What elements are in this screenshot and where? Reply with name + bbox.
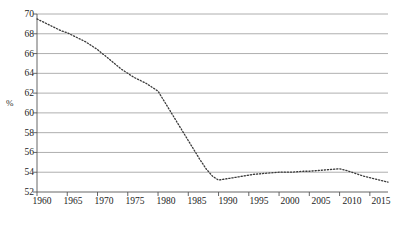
y-axis-ticks: [33, 14, 37, 192]
plot-area: [0, 0, 399, 226]
line-chart: % 70 68 66 64 62 60 58 56 54 52 1960 196…: [0, 0, 399, 226]
gridlines: [37, 14, 388, 172]
data-series-line: [37, 19, 388, 182]
axis-lines: [37, 14, 388, 192]
x-axis-ticks: [37, 192, 370, 196]
